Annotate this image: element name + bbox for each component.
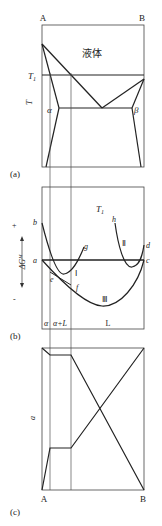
panel-b-caption: (b) bbox=[10, 331, 21, 341]
arrow-up-icon bbox=[20, 236, 24, 241]
panel-c: a A B (c) bbox=[10, 348, 146, 517]
minus-sign: - bbox=[13, 295, 16, 304]
point-b-label: b bbox=[33, 218, 37, 227]
beta-solvus bbox=[132, 108, 141, 167]
alpha-phase-label: α bbox=[47, 105, 52, 115]
point-f-label: f bbox=[76, 283, 80, 292]
panel-c-caption: (c) bbox=[10, 507, 20, 517]
t1-label: T1 bbox=[28, 71, 36, 82]
component-b-label: B bbox=[139, 13, 145, 23]
delta-g-axis-label: ΔGM bbox=[18, 254, 27, 270]
phase-diagram-figure: A B 液体 T1 T α β (a) + - ΔGM T1 b a c d e bbox=[0, 0, 162, 526]
curve-iii-liquid bbox=[42, 260, 144, 306]
point-h-label: h bbox=[112, 215, 116, 224]
region-alpha-label: α bbox=[44, 319, 49, 328]
region-liquid-label: L bbox=[106, 319, 111, 328]
curve-ii-label: Ⅱ bbox=[122, 239, 126, 248]
curve-iii-label: Ⅲ bbox=[102, 295, 108, 304]
point-g-label: g bbox=[84, 242, 88, 251]
temperature-axis-label: T bbox=[24, 99, 34, 105]
point-d-label: d bbox=[146, 241, 151, 250]
component-a-label: A bbox=[40, 13, 47, 23]
arrow-down-icon bbox=[20, 283, 24, 288]
panel-a: A B 液体 T1 T α β (a) bbox=[10, 13, 145, 179]
panel-b-frame bbox=[42, 187, 144, 329]
region-alpha-plus-liquid-label: α+L bbox=[53, 319, 68, 328]
point-a-label: a bbox=[33, 256, 37, 265]
plus-sign: + bbox=[12, 221, 17, 230]
alpha-solvus bbox=[46, 108, 59, 167]
activity-b-curve bbox=[42, 348, 144, 490]
component-a-label-c: A bbox=[41, 494, 48, 504]
t1-label-b: T1 bbox=[96, 204, 104, 215]
activity-axis-label: a bbox=[28, 416, 37, 420]
panel-b: + - ΔGM T1 b a c d e f g h Ⅰ Ⅱ Ⅲ α α+L L… bbox=[10, 187, 151, 341]
point-c-label: c bbox=[146, 256, 150, 265]
panel-a-caption: (a) bbox=[10, 169, 20, 179]
panel-a-frame bbox=[42, 25, 144, 167]
curve-i-label: Ⅰ bbox=[75, 269, 77, 278]
liquid-region-label: 液体 bbox=[82, 47, 102, 59]
beta-phase-label: β bbox=[133, 105, 139, 115]
point-e-label: e bbox=[50, 275, 54, 284]
component-b-label-c: B bbox=[140, 494, 146, 504]
